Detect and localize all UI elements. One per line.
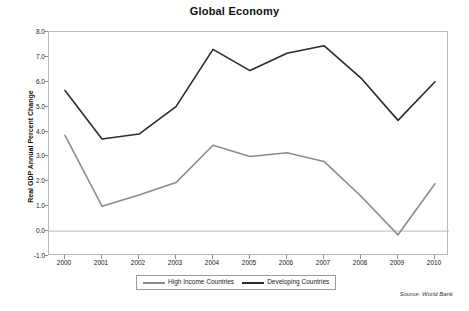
y-tick-label: 6.0 <box>21 77 45 84</box>
legend-line-icon <box>242 282 264 284</box>
y-tick-label: 1.0 <box>21 202 45 209</box>
y-tick-label: -1.0 <box>21 252 45 259</box>
chart-title: Global Economy <box>0 5 469 17</box>
x-tick-label: 2006 <box>266 259 306 266</box>
x-tick-label: 2005 <box>229 259 269 266</box>
legend-item[interactable]: Developing Countries <box>242 279 329 286</box>
y-tick-label: 2.0 <box>21 177 45 184</box>
x-tick-label: 2004 <box>192 259 232 266</box>
x-tick-label: 2009 <box>377 259 417 266</box>
x-tick-label: 2003 <box>155 259 195 266</box>
x-tick-label: 2001 <box>81 259 121 266</box>
y-tick-label: 0.0 <box>21 227 45 234</box>
plot-area <box>48 31 448 255</box>
series-line-developing-countries <box>65 46 435 139</box>
x-tick-label: 2010 <box>414 259 454 266</box>
x-tick-label: 2008 <box>340 259 380 266</box>
x-tick-label: 2007 <box>303 259 343 266</box>
plot-lines <box>49 32 449 256</box>
y-tick-label: 7.0 <box>21 52 45 59</box>
source-note: Source: World Bank <box>400 291 453 297</box>
chart-legend: High Income CountriesDeveloping Countrie… <box>136 275 336 290</box>
series-line-high-income-countries <box>65 135 435 235</box>
legend-item-label: High Income Countries <box>168 279 234 286</box>
x-tick-label: 2000 <box>44 259 84 266</box>
y-tick-label: 4.0 <box>21 127 45 134</box>
chart-container: Global Economy Real GDP Annual Percent C… <box>0 0 469 311</box>
y-tick-mark <box>44 255 48 256</box>
legend-item-label: Developing Countries <box>267 279 329 286</box>
y-tick-label: 5.0 <box>21 102 45 109</box>
legend-item[interactable]: High Income Countries <box>143 279 234 286</box>
y-tick-label: 3.0 <box>21 152 45 159</box>
legend-line-icon <box>143 282 165 284</box>
x-tick-label: 2002 <box>118 259 158 266</box>
y-tick-label: 8.0 <box>21 28 45 35</box>
